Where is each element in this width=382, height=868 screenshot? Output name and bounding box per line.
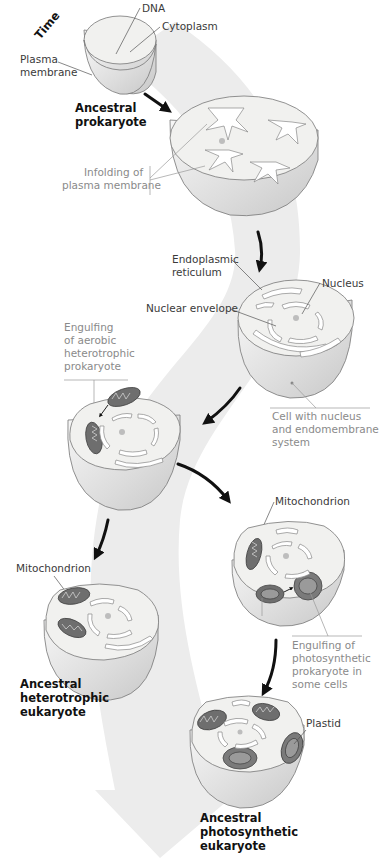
nucleated-cell — [238, 280, 354, 398]
heterotrophic-title-3: eukaryote — [20, 705, 86, 719]
ancestral-prokaryote-title-1: Ancestral — [75, 101, 136, 115]
heterotrophic-title-2: heterotrophic — [20, 691, 109, 705]
engulfing-photosynthetic-cell — [232, 521, 345, 626]
engulf-aerobic-label-3: heterotrophic — [64, 347, 135, 359]
photosynthetic-title-3: eukaryote — [200, 839, 266, 853]
engulf-photo-label-4: some cells — [292, 678, 347, 690]
photosynthetic-title-1: Ancestral — [200, 811, 261, 825]
engulf-aerobic-label-2: of aerobic — [64, 334, 116, 346]
time-label: Time — [32, 9, 63, 42]
infolding-cell — [170, 96, 318, 216]
nucleus-caption-1: Cell with nucleus — [272, 410, 361, 422]
engulf-photo-label-2: photosynthetic — [292, 652, 371, 664]
er-label-1: Endoplasmic — [172, 253, 239, 265]
dna-label: DNA — [142, 2, 166, 14]
mitochondrion-label-left: Mitochondrion — [16, 562, 91, 574]
plastid-label: Plastid — [306, 717, 341, 729]
engulf-aerobic-label-1: Engulfing — [64, 321, 113, 333]
ancestral-prokaryote-cell — [84, 16, 156, 94]
heterotrophic-title-1: Ancestral — [20, 677, 81, 691]
photosynthetic-title-2: photosynthetic — [200, 825, 298, 839]
nuclear-envelope-label: Nuclear envelope — [146, 302, 238, 314]
plasma-membrane-label-2: membrane — [20, 66, 77, 78]
infolding-label-1: Infolding of — [84, 166, 143, 178]
plasma-membrane-label-1: Plasma — [20, 53, 58, 65]
endosymbiosis-diagram: Time DNA Cytoplasm Plasma membrane Ances… — [0, 0, 382, 868]
photosynthetic-eukaryote-cell — [190, 696, 307, 808]
er-label-2: reticulum — [172, 266, 222, 278]
engulf-photo-label-3: prokaryote in — [292, 665, 362, 677]
mitochondrion-label-right: Mitochondrion — [275, 495, 350, 507]
ancestral-prokaryote-title-2: prokaryote — [75, 115, 147, 129]
nucleus-caption-2: and endomembrane — [272, 423, 379, 435]
engulf-aerobic-label-4: prokaryote — [64, 360, 121, 372]
nucleus-label: Nucleus — [322, 277, 364, 289]
infolding-label-2: plasma membrane — [62, 179, 161, 191]
arrow-6 — [264, 640, 276, 692]
cytoplasm-label: Cytoplasm — [162, 20, 218, 32]
engulf-photo-label-1: Engulfing of — [292, 639, 355, 651]
nucleus-caption-3: system — [272, 436, 310, 448]
